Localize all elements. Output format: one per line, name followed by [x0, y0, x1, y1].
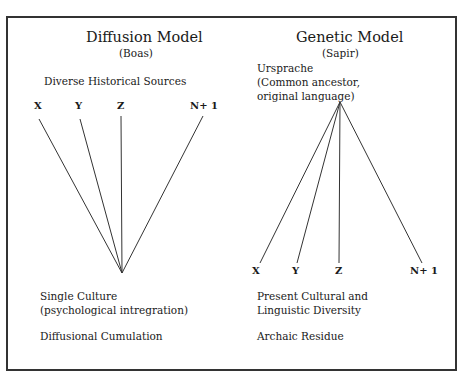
diffusion-line-y	[80, 119, 122, 273]
genetic-top-label-1: Ursprache	[257, 61, 313, 75]
diffusion-node-z: Z	[117, 100, 124, 111]
diffusion-bottom-label-1: Single Culture	[40, 289, 117, 303]
diffusion-line-z	[121, 116, 122, 273]
diffusion-title: Diffusion Model	[86, 29, 203, 45]
genetic-line-n1	[340, 102, 422, 263]
genetic-top-label-3: original language)	[257, 89, 355, 103]
diffusion-top-label: Diverse Historical Sources	[44, 74, 186, 88]
diffusion-node-n1: N+ 1	[190, 100, 218, 111]
genetic-bottom-label-2: Linguistic Diversity	[257, 303, 361, 317]
diffusion-line-n1	[122, 116, 203, 273]
diffusion-bottom-label-2: (psychological intregration)	[40, 303, 188, 317]
genetic-bottom-label-1: Present Cultural and	[257, 289, 368, 303]
diffusion-node-y: Y	[75, 100, 82, 111]
genetic-node-n1: N+ 1	[410, 265, 438, 276]
genetic-line-y	[297, 102, 340, 263]
genetic-node-y: Y	[292, 265, 299, 276]
genetic-process-label: Archaic Residue	[257, 329, 344, 343]
diffusion-line-x	[39, 119, 122, 273]
genetic-line-z	[339, 102, 340, 263]
genetic-node-x: X	[252, 265, 260, 276]
genetic-node-z: Z	[335, 265, 342, 276]
genetic-subtitle: (Sapir)	[322, 47, 359, 59]
genetic-top-label-2: (Common ancestor,	[257, 75, 360, 89]
diffusion-node-x: X	[34, 100, 42, 111]
diffusion-subtitle: (Boas)	[119, 47, 153, 59]
diffusion-process-label: Diffusional Cumulation	[40, 329, 163, 343]
genetic-line-x	[260, 102, 340, 263]
genetic-title: Genetic Model	[296, 29, 403, 45]
